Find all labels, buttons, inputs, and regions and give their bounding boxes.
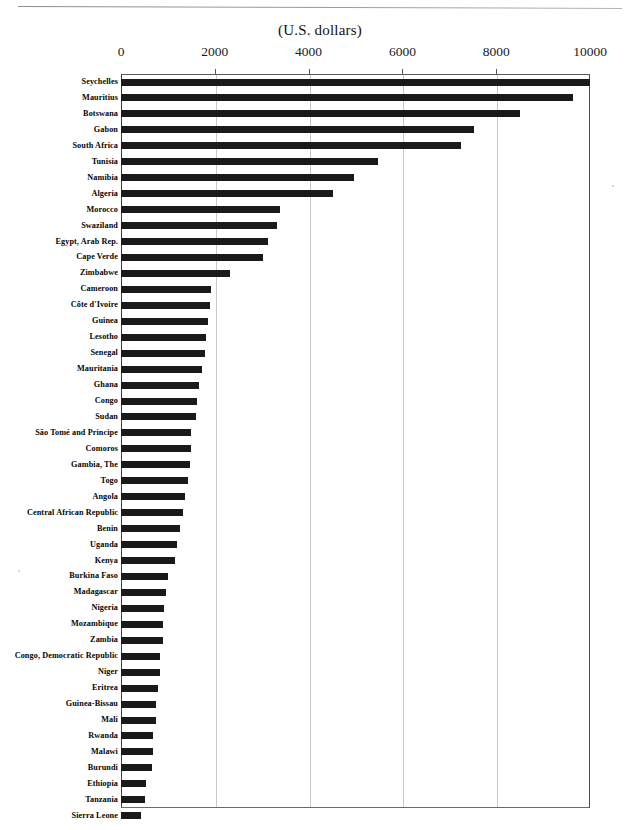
x-tick-label-2000: 2000 xyxy=(201,44,228,60)
category-label: Central African Republic xyxy=(0,506,118,520)
bar xyxy=(121,717,156,724)
bar-row: Morocco xyxy=(0,202,640,218)
category-label: Mozambique xyxy=(0,617,118,631)
category-label: Ethiopia xyxy=(0,777,118,791)
bar xyxy=(121,653,160,660)
category-label: Benin xyxy=(0,522,118,536)
bar xyxy=(121,525,180,532)
bar xyxy=(121,158,378,165)
bar-row: Gambia, The xyxy=(0,457,640,473)
bar xyxy=(121,382,199,389)
bar xyxy=(121,461,190,468)
bar-row: Ethiopia xyxy=(0,776,640,792)
bar-row: Cape Verde xyxy=(0,249,640,265)
bar xyxy=(121,206,280,213)
bar xyxy=(121,541,177,548)
bar xyxy=(121,780,146,787)
bar xyxy=(121,413,196,420)
bar-row: Zimbabwe xyxy=(0,265,640,281)
category-label: Swaziland xyxy=(0,219,118,233)
bar xyxy=(121,493,185,500)
bar xyxy=(121,685,158,692)
category-label: Gambia, The xyxy=(0,458,118,472)
bar xyxy=(121,79,590,86)
chart-axis-title: (U.S. dollars) xyxy=(0,22,640,39)
bar-row: Togo xyxy=(0,473,640,489)
bar xyxy=(121,94,573,101)
bar-row: Guinea xyxy=(0,313,640,329)
bar xyxy=(121,110,520,117)
bar-row: Comoros xyxy=(0,441,640,457)
scan-fleck xyxy=(612,185,614,187)
bar-row: Sierra Leone xyxy=(0,808,640,824)
category-label: Cameroon xyxy=(0,282,118,296)
bar xyxy=(121,732,153,739)
category-label: Nigeria xyxy=(0,601,118,615)
category-label: Congo, Democratic Republic xyxy=(0,649,118,663)
bar-row: Madagascar xyxy=(0,584,640,600)
bar xyxy=(121,126,474,133)
bar-row: Mauritania xyxy=(0,361,640,377)
category-label: Comoros xyxy=(0,442,118,456)
bar-row: Algeria xyxy=(0,186,640,202)
category-label: Côte d'Ivoire xyxy=(0,298,118,312)
bar-row: Niger xyxy=(0,664,640,680)
bar-row: Zambia xyxy=(0,632,640,648)
bar-row: Egypt, Arab Rep. xyxy=(0,234,640,250)
bar-row: Central African Republic xyxy=(0,505,640,521)
category-label: Egypt, Arab Rep. xyxy=(0,235,118,249)
bar xyxy=(121,796,145,803)
bar-row: Burundi xyxy=(0,760,640,776)
bar xyxy=(121,190,333,197)
x-tick-label-6000: 6000 xyxy=(389,44,416,60)
bar xyxy=(121,366,202,373)
category-label: Guinea xyxy=(0,314,118,328)
x-tick-label-8000: 8000 xyxy=(483,44,510,60)
category-label: South Africa xyxy=(0,139,118,153)
category-label: Algeria xyxy=(0,187,118,201)
category-label: Guinea-Bissau xyxy=(0,697,118,711)
bar xyxy=(121,669,160,676)
bar xyxy=(121,812,141,819)
category-label: Tanzania xyxy=(0,793,118,807)
category-label: São Tomé and Principe xyxy=(0,426,118,440)
category-label: Senegal xyxy=(0,346,118,360)
category-label: Sudan xyxy=(0,410,118,424)
page-top-rule xyxy=(18,6,622,9)
category-label: Madagascar xyxy=(0,585,118,599)
bar xyxy=(121,573,168,580)
bar xyxy=(121,318,208,325)
category-label: Ghana xyxy=(0,378,118,392)
bar xyxy=(121,334,206,341)
bar xyxy=(121,174,354,181)
bar-row: Namibia xyxy=(0,170,640,186)
bar xyxy=(121,605,164,612)
bar-row: Mauritius xyxy=(0,90,640,106)
bar xyxy=(121,509,183,516)
bar-row: Congo, Democratic Republic xyxy=(0,648,640,664)
bar-row: South Africa xyxy=(0,138,640,154)
bar-row: Seychelles xyxy=(0,74,640,90)
bar xyxy=(121,701,156,708)
bar-row: Mozambique xyxy=(0,616,640,632)
bar xyxy=(121,350,205,357)
x-tick-label-4000: 4000 xyxy=(295,44,322,60)
bar xyxy=(121,748,153,755)
category-label: Seychelles xyxy=(0,75,118,89)
bar-row: Nigeria xyxy=(0,600,640,616)
bar xyxy=(121,254,263,261)
x-axis-tick-labels: 0200040006000800010000 xyxy=(0,44,640,64)
category-label: Congo xyxy=(0,394,118,408)
category-label: Cape Verde xyxy=(0,250,118,264)
category-label: Kenya xyxy=(0,554,118,568)
category-label: Gabon xyxy=(0,123,118,137)
bar-row: Cameroon xyxy=(0,281,640,297)
bar xyxy=(121,589,166,596)
bar-row: Gabon xyxy=(0,122,640,138)
bar-row: Congo xyxy=(0,393,640,409)
bar-row: Guinea-Bissau xyxy=(0,696,640,712)
bar-row: Rwanda xyxy=(0,728,640,744)
bar xyxy=(121,270,230,277)
bar-row: Uganda xyxy=(0,537,640,553)
bar-row: São Tomé and Principe xyxy=(0,425,640,441)
